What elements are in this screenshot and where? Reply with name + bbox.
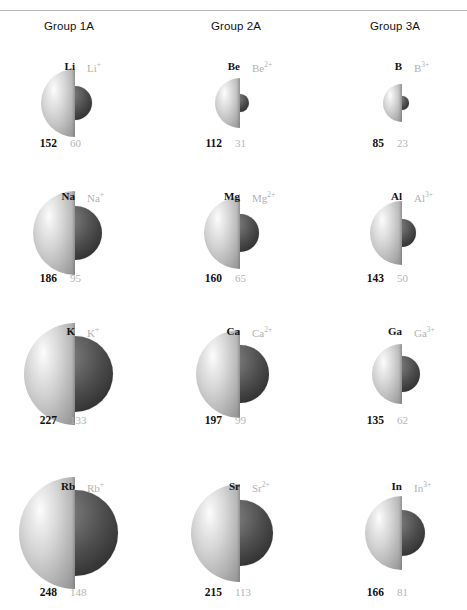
hemisphere-cut-face	[72, 191, 75, 275]
atomic-ionic-radii-figure: Group 1A Group 2A Group 3A LiLi+15260NaN…	[0, 0, 467, 610]
atom-radius-value: 186	[23, 272, 57, 284]
atom-symbol-label: Ca	[212, 325, 240, 337]
header-rule	[0, 10, 467, 11]
ion-symbol-label: Sr2+	[252, 480, 270, 494]
ion-symbol-label: In3+	[414, 480, 431, 494]
atom-radius-value: 143	[350, 272, 384, 284]
hemisphere-cut-face	[237, 78, 240, 129]
ion-radius-value: 99	[235, 414, 265, 426]
ion-symbol-label: Al3+	[414, 190, 433, 204]
atom-radius-value: 135	[350, 414, 384, 426]
atom-symbol-label: In	[374, 480, 402, 492]
ion-radius-value: 23	[397, 137, 427, 149]
ion-symbol-label: B3+	[414, 60, 429, 74]
column-header-group-1a: Group 1A	[44, 20, 94, 32]
hemisphere-cut-face	[72, 323, 75, 426]
atom-hemisphere	[204, 197, 240, 269]
atom-hemisphere	[41, 69, 75, 138]
atom-hemisphere	[19, 477, 75, 589]
cut-off-header-text	[300, 0, 360, 7]
ion-symbol-label: Na+	[87, 190, 104, 204]
ion-symbol-label: Ca2+	[252, 325, 272, 339]
ion-radius-value: 60	[70, 137, 100, 149]
ion-radius-value: 81	[397, 586, 427, 598]
atom-hemisphere	[24, 323, 75, 426]
atom-radius-value: 227	[23, 414, 57, 426]
ion-symbol-label: Be2+	[252, 60, 272, 74]
atom-hemisphere	[33, 191, 75, 275]
atom-hemisphere	[370, 201, 402, 266]
ion-radius-value: 65	[235, 272, 265, 284]
ion-radius-value: 31	[235, 137, 265, 149]
ion-symbol-label: K+	[87, 325, 99, 339]
atom-radius-value: 248	[23, 586, 57, 598]
atom-symbol-label: B	[374, 60, 402, 72]
atom-radius-value: 197	[188, 414, 222, 426]
atom-symbol-label: Na	[47, 190, 75, 202]
hemisphere-cut-face	[237, 197, 240, 269]
ion-symbol-label: Ga3+	[414, 325, 435, 339]
atom-hemisphere	[191, 484, 240, 581]
ion-symbol-label: Rb+	[87, 480, 104, 494]
column-header-group-3a: Group 3A	[370, 20, 420, 32]
ion-radius-value: 62	[397, 414, 427, 426]
ion-radius-value: 95	[70, 272, 100, 284]
hemisphere-cut-face	[399, 344, 402, 405]
ion-symbol-label: Li+	[87, 60, 101, 74]
ion-radius-value: 113	[235, 586, 265, 598]
atom-hemisphere	[372, 344, 402, 405]
atom-hemisphere	[365, 496, 402, 571]
ion-radius-value: 148	[70, 586, 100, 598]
atom-hemisphere	[196, 330, 240, 419]
hemisphere-cut-face	[72, 477, 75, 589]
atom-symbol-label: Sr	[212, 480, 240, 492]
atom-symbol-label: Li	[47, 60, 75, 72]
hemisphere-cut-face	[399, 496, 402, 571]
atom-radius-value: 166	[350, 586, 384, 598]
atom-radius-value: 85	[350, 137, 384, 149]
atom-symbol-label: Ga	[374, 325, 402, 337]
atom-symbol-label: K	[47, 325, 75, 337]
hemisphere-cut-face	[399, 84, 402, 122]
column-header-group-2a: Group 2A	[211, 20, 261, 32]
hemisphere-cut-face	[399, 201, 402, 266]
ion-symbol-label: Mg2+	[252, 190, 275, 204]
atom-radius-value: 152	[23, 137, 57, 149]
hemisphere-cut-face	[72, 69, 75, 138]
atom-symbol-label: Mg	[212, 190, 240, 202]
hemisphere-cut-face	[237, 330, 240, 419]
atom-symbol-label: Be	[212, 60, 240, 72]
atom-radius-value: 112	[188, 137, 222, 149]
ion-radius-value: 50	[397, 272, 427, 284]
atom-radius-value: 160	[188, 272, 222, 284]
ion-radius-value: 133	[70, 414, 100, 426]
atom-symbol-label: Rb	[47, 480, 75, 492]
atom-radius-value: 215	[188, 586, 222, 598]
atom-symbol-label: Al	[374, 190, 402, 202]
hemisphere-cut-face	[237, 484, 240, 581]
